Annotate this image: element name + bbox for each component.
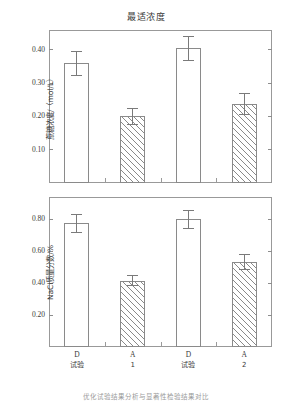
x-category-sublabel: 试验 <box>49 360 105 371</box>
y-tick-mark-left <box>49 219 53 220</box>
error-bar-stem <box>76 214 77 233</box>
bar-top-2 <box>120 116 145 183</box>
error-bar-cap-bottom <box>183 228 194 229</box>
y-tick-mark-right <box>268 251 272 252</box>
error-bar-cap-bottom <box>127 285 138 286</box>
error-bar-cap-top <box>239 93 250 94</box>
error-bar-cap-bottom <box>71 75 82 76</box>
error-bar-cap-top <box>239 254 250 255</box>
x-category-letter: D <box>161 349 217 360</box>
x-axis-separator <box>161 342 162 347</box>
x-category-2: A1 <box>105 349 161 371</box>
y-tick-mark-left <box>49 315 53 316</box>
error-bar-stem <box>132 108 133 125</box>
x-category-letter: A <box>216 349 272 360</box>
error-bar-cap-bottom <box>127 124 138 125</box>
x-category-letter: D <box>49 349 105 360</box>
bar-bottom-2 <box>120 281 145 347</box>
x-axis-separator <box>105 178 106 183</box>
error-bar-cap-top <box>71 214 82 215</box>
x-category-letter: A <box>105 349 161 360</box>
y-axis-label-top: 蔗糖浓度/（mol/L） <box>44 67 55 147</box>
y-tick-mark-right <box>268 83 272 84</box>
x-axis-category-labels: D试验A1D试验A2 <box>49 349 272 375</box>
bar-top-1 <box>64 63 89 183</box>
error-bar-stem <box>244 93 245 115</box>
bar-bottom-4 <box>232 262 257 347</box>
y-tick-mark-left <box>49 149 53 150</box>
figure-caption: 优化试验结果分析与显著性检验结果对比 <box>0 391 292 401</box>
x-axis-separator <box>161 178 162 183</box>
error-bar-cap-bottom <box>239 269 250 270</box>
x-category-3: D试验 <box>161 349 217 371</box>
error-bar-stem <box>188 210 189 229</box>
error-bar-stem <box>188 36 189 61</box>
error-bar-cap-top <box>183 36 194 37</box>
x-axis-separator <box>216 178 217 183</box>
error-bar-cap-top <box>71 51 82 52</box>
x-axis-separator <box>216 342 217 347</box>
error-bar-cap-bottom <box>71 232 82 233</box>
y-tick-mark-right <box>268 49 272 50</box>
x-axis-separator <box>105 342 106 347</box>
error-bar-cap-top <box>183 210 194 211</box>
error-bar-cap-bottom <box>239 114 250 115</box>
bar-top-4 <box>232 104 257 183</box>
error-bar-cap-top <box>127 108 138 109</box>
error-bar-cap-bottom <box>183 60 194 61</box>
y-tick-mark-right <box>268 283 272 284</box>
bar-bottom-3 <box>176 219 201 347</box>
y-axis-label-bottom: NaCl质量分数/% <box>44 233 55 313</box>
error-bar-cap-top <box>127 275 138 276</box>
y-tick-label: 0.40 <box>32 45 45 54</box>
bar-bottom-1 <box>64 223 89 347</box>
x-category-4: A2 <box>216 349 272 371</box>
x-category-sublabel: 试验 <box>161 360 217 371</box>
y-tick-mark-left <box>49 49 53 50</box>
error-bar-stem <box>244 254 245 270</box>
y-tick-mark-right <box>268 219 272 220</box>
y-tick-mark-right <box>268 116 272 117</box>
y-tick-label: 0.80 <box>32 214 45 223</box>
chart-panel-top: 0.100.200.300.40 <box>49 30 272 183</box>
x-category-sublabel: 2 <box>216 360 272 371</box>
bar-top-3 <box>176 48 201 183</box>
x-category-1: D试验 <box>49 349 105 371</box>
error-bar-stem <box>76 51 77 76</box>
y-tick-mark-right <box>268 149 272 150</box>
x-category-sublabel: 1 <box>105 360 161 371</box>
chart-title: 最适浓度 <box>0 10 292 23</box>
chart-panel-bottom: 0.200.400.600.80 <box>49 197 272 347</box>
y-tick-mark-right <box>268 315 272 316</box>
